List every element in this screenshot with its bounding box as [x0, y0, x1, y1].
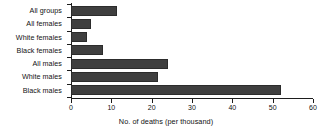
bar [71, 6, 117, 16]
x-axis-tick-label: 20 [140, 104, 164, 111]
bar [71, 45, 103, 55]
y-axis-label-black-females: Black females [0, 44, 66, 57]
bar-row [71, 4, 313, 17]
bar-row [71, 31, 313, 44]
x-axis-tick-label: 50 [261, 104, 285, 111]
x-axis-tick-label: 30 [180, 104, 204, 111]
y-axis-label-white-males: White males [0, 70, 66, 83]
x-axis-tick-label: 40 [220, 104, 244, 111]
bar-row [71, 57, 313, 70]
y-axis-label-white-females: White females [0, 31, 66, 44]
bar-row [71, 70, 313, 83]
bar [71, 72, 158, 82]
bar [71, 59, 168, 69]
x-axis-tick-label: 10 [99, 104, 123, 111]
bar-row [71, 44, 313, 57]
y-axis-label-all-males: All males [0, 57, 66, 70]
bar-chart: All groups All females White females Bla… [0, 0, 332, 134]
y-axis-label-all-groups: All groups [0, 4, 66, 17]
x-axis-tick-label: 60 [301, 104, 325, 111]
y-axis-label-all-females: All females [0, 17, 66, 30]
x-axis-tick-label: 0 [59, 104, 83, 111]
x-axis-tick [232, 99, 233, 103]
x-axis-tick [273, 99, 274, 103]
x-axis-tick [71, 99, 72, 103]
bar [71, 85, 281, 95]
x-axis-tick [313, 99, 314, 103]
bar [71, 19, 91, 29]
x-axis-tick [111, 99, 112, 103]
plot-area [71, 4, 313, 97]
bar-row [71, 17, 313, 30]
bar [71, 32, 87, 42]
x-axis-tick [192, 99, 193, 103]
x-axis-tick [152, 99, 153, 103]
y-axis-label-black-males: Black males [0, 84, 66, 97]
bar-row [71, 84, 313, 97]
x-axis-title: No. of deaths (per thousand) [0, 117, 332, 126]
y-axis-category-labels: All groups All females White females Bla… [0, 4, 66, 97]
